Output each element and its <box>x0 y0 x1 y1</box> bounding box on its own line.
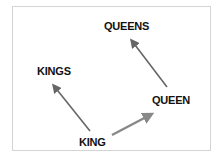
arrow-king-to-queen <box>112 115 150 135</box>
label-queen: QUEEN <box>152 94 190 106</box>
arrow-king-to-kings <box>54 86 90 131</box>
label-king: KING <box>79 136 106 148</box>
label-queens: QUEENS <box>104 20 149 32</box>
arrow-queen-to-queens <box>132 41 167 87</box>
label-kings: KINGS <box>37 65 71 77</box>
